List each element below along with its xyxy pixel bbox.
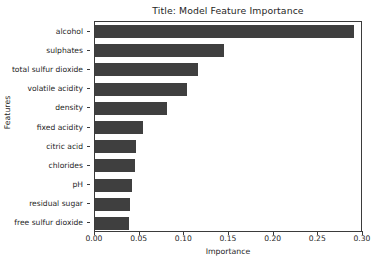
x-axis-tick-labels: 0.000.050.100.150.200.250.30 [94, 234, 362, 248]
bar-density [95, 102, 361, 115]
y-tick-mark [87, 107, 91, 108]
y-tick-mark [87, 165, 91, 166]
bar-fill [95, 102, 167, 115]
x-tick-label-0.20: 0.20 [264, 234, 281, 243]
y-axis-tick-labels: alcoholsulphatestotal sulfur dioxidevola… [0, 21, 90, 232]
bar-citric-acid [95, 140, 361, 153]
bar-alcohol [95, 25, 361, 38]
bar-total-sulfur-dioxide [95, 63, 361, 76]
y-tick-label-density: density [55, 103, 83, 112]
bar-sulphates [95, 44, 361, 57]
y-tick-label-total-sulfur-dioxide: total sulfur dioxide [12, 64, 83, 73]
x-tick-label-0.15: 0.15 [220, 234, 237, 243]
y-tick-mark [87, 88, 91, 89]
y-tick-label-chlorides: chlorides [49, 160, 83, 169]
bar-fill [95, 198, 130, 211]
x-tick-mark [139, 231, 140, 235]
bar-fill [95, 83, 187, 96]
y-tick-label-free-sulfur-dioxide: free sulfur dioxide [14, 218, 83, 227]
bar-fixed-acidity [95, 121, 361, 134]
y-tick-label-alcohol: alcohol [56, 26, 83, 35]
y-tick-mark [87, 222, 91, 223]
x-tick-label-0.00: 0.00 [86, 234, 103, 243]
bar-free-sulfur-dioxide [95, 217, 361, 230]
x-tick-mark [94, 231, 95, 235]
y-tick-mark [87, 184, 91, 185]
x-tick-mark [228, 231, 229, 235]
x-tick-mark [317, 231, 318, 235]
y-tick-mark [87, 127, 91, 128]
x-tick-label-0.30: 0.30 [354, 234, 371, 243]
x-tick-mark [362, 231, 363, 235]
x-tick-mark [273, 231, 274, 235]
bar-fill [95, 25, 354, 38]
bar-residual-sugar [95, 198, 361, 211]
y-tick-mark [87, 50, 91, 51]
plot-area [94, 21, 362, 232]
y-tick-label-volatile-acidity: volatile acidity [27, 84, 83, 93]
x-tick-label-0.10: 0.10 [175, 234, 192, 243]
y-tick-label-pH: pH [72, 180, 83, 189]
bar-fill [95, 159, 135, 172]
y-tick-label-fixed-acidity: fixed acidity [37, 122, 83, 131]
bar-fill [95, 140, 136, 153]
bar-fill [95, 217, 129, 230]
bar-pH [95, 179, 361, 192]
bar-fill [95, 121, 143, 134]
bar-chlorides [95, 159, 361, 172]
y-tick-label-residual-sugar: residual sugar [29, 199, 83, 208]
y-tick-mark [87, 69, 91, 70]
x-tick-mark [183, 231, 184, 235]
x-tick-label-0.25: 0.25 [309, 234, 326, 243]
bar-volatile-acidity [95, 83, 361, 96]
y-tick-mark [87, 31, 91, 32]
bar-fill [95, 44, 224, 57]
bars-layer [95, 22, 361, 231]
y-tick-mark [87, 146, 91, 147]
x-axis-title: Importance [94, 247, 362, 256]
y-tick-label-sulphates: sulphates [46, 45, 83, 54]
bar-fill [95, 63, 198, 76]
bar-fill [95, 179, 132, 192]
feature-importance-chart-figure: Title: Model Feature Importance Features… [0, 0, 374, 265]
x-tick-label-0.05: 0.05 [130, 234, 147, 243]
chart-title: Title: Model Feature Importance [94, 5, 362, 16]
y-tick-label-citric-acid: citric acid [46, 141, 83, 150]
y-tick-mark [87, 203, 91, 204]
